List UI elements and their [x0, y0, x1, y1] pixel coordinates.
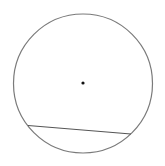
circle-chord-diagram — [0, 0, 165, 166]
center-point — [81, 81, 84, 84]
